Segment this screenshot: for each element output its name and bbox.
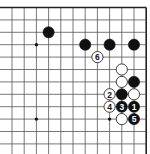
move-number-label: 1 <box>132 102 137 112</box>
star-point-icon <box>35 43 38 46</box>
move-number-label: 4 <box>107 102 112 112</box>
move-number-label: 5 <box>132 114 137 124</box>
white-stone-icon <box>116 114 127 125</box>
white-stone-icon <box>128 89 139 100</box>
black-stone-icon <box>128 39 139 50</box>
black-stone-icon <box>80 39 91 50</box>
stone-move-1: 1 <box>128 101 139 112</box>
black-stone-icon <box>128 76 139 87</box>
move-number-label: 2 <box>107 90 112 100</box>
white-stone <box>116 64 127 75</box>
black-stone-icon <box>43 27 54 38</box>
stone-move-5: 5 <box>128 114 139 125</box>
white-stone <box>116 76 127 87</box>
black-stone <box>116 89 127 100</box>
black-stone-icon <box>116 89 127 100</box>
star-point-icon <box>35 117 38 120</box>
black-stone <box>128 76 139 87</box>
move-number-label: 6 <box>95 52 100 62</box>
stone-move-3: 3 <box>116 101 127 112</box>
stones: 624315 <box>43 27 140 125</box>
white-stone <box>128 89 139 100</box>
stone-move-4: 4 <box>104 101 115 112</box>
black-stone <box>104 39 115 50</box>
white-stone-icon <box>116 64 127 75</box>
white-stone <box>116 114 127 125</box>
black-stone-icon <box>104 39 115 50</box>
go-board: 624315 <box>0 0 150 154</box>
black-stone <box>128 39 139 50</box>
star-point-icon <box>108 117 111 120</box>
move-number-label: 3 <box>119 102 124 112</box>
black-stone <box>80 39 91 50</box>
black-stone <box>43 27 54 38</box>
stone-move-6: 6 <box>92 52 103 63</box>
stone-move-2: 2 <box>104 89 115 100</box>
white-stone-icon <box>116 76 127 87</box>
